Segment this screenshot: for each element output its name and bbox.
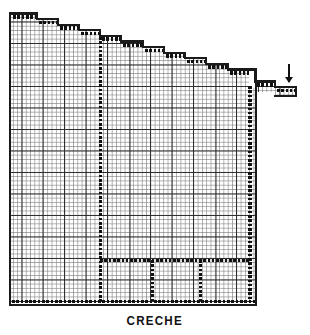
- facade-dots-5: [102, 37, 121, 41]
- exterior-wall-right: [255, 68, 257, 306]
- facade-dots-10: [208, 65, 228, 69]
- partition-lower-horizontal: [100, 259, 250, 263]
- facade-dots-11: [230, 71, 249, 75]
- exterior-wall-right-dots: [248, 86, 252, 302]
- facade-dots-9: [187, 60, 206, 64]
- exterior-wall-bottom: [9, 304, 257, 306]
- facade-dots-1: [13, 15, 36, 19]
- building-walls: [0, 0, 310, 335]
- facade-dots-7: [145, 49, 164, 53]
- plan-caption: CRECHE: [0, 311, 310, 329]
- exterior-wall-bottom-dots: [12, 300, 255, 304]
- entrance-step-dots-2: [277, 89, 295, 93]
- entrance-step-dots-1: [257, 83, 274, 87]
- facade-dots-2: [39, 21, 58, 25]
- partition-room-divider-1: [151, 260, 155, 301]
- plan-caption-text: CRECHE: [127, 313, 183, 328]
- entrance-arrow-icon: [285, 60, 295, 84]
- exterior-wall-left: [9, 12, 11, 304]
- partition-room-divider-2: [199, 260, 203, 301]
- facade-dots-6: [123, 43, 143, 47]
- arrow-head: [285, 77, 293, 83]
- facade-dots-3: [60, 26, 79, 30]
- facade-dots-4: [81, 32, 100, 36]
- facade-dots-8: [166, 54, 185, 58]
- creche-floor-plan-drawing: CRECHE: [0, 0, 310, 335]
- entrance-step-base: [274, 95, 297, 97]
